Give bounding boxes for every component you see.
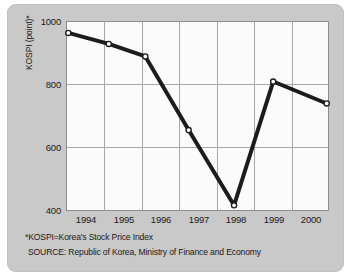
x-axis-tick-1999: 1999: [254, 214, 294, 225]
data-point-2000: [324, 101, 329, 106]
data-point-1998: [231, 203, 236, 208]
y-axis-tick-800: 800: [15, 79, 61, 90]
data-point-1994: [66, 30, 71, 35]
data-point-1995: [106, 41, 111, 46]
plot-area: [66, 21, 329, 211]
x-axis-tick-1994: 1994: [66, 214, 106, 225]
series-polyline: [68, 33, 326, 205]
x-axis-tick-1997: 1997: [179, 214, 219, 225]
y-axis-tick-1000: 1000: [15, 16, 61, 27]
data-point-1997: [186, 128, 191, 133]
chart-figure: KOSPI (point)* 1000 800 600 400 1994 199…: [0, 0, 351, 278]
y-axis-tick-400: 400: [15, 205, 61, 216]
x-axis-tick-1998: 1998: [216, 214, 256, 225]
x-axis-tick-2000: 2000: [291, 214, 331, 225]
x-axis-tick-1995: 1995: [104, 214, 144, 225]
series-markers: [66, 30, 330, 207]
footnote-source: SOURCE: Republic of Korea, Ministry of F…: [28, 247, 261, 257]
data-point-1999: [271, 79, 276, 84]
x-axis-tick-1996: 1996: [141, 214, 181, 225]
footnote-kospi-definition: *KOSPI=Korea's Stock Price Index: [25, 232, 153, 242]
series-line-kospi: [67, 22, 328, 210]
y-axis-tick-600: 600: [15, 142, 61, 153]
data-point-1996: [143, 54, 148, 59]
